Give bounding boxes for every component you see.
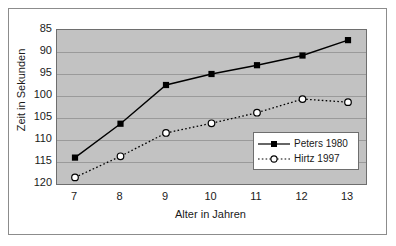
legend-label-hirtz: Hirtz 1997 [291,153,340,164]
x-tick-label: 9 [150,190,180,202]
legend-item-peters: Peters 1980 [257,136,354,151]
x-tick-label: 12 [287,190,317,202]
chart-figure: Zeit in Sekunden 859095100105110115120 7… [0,0,396,246]
data-point-square-icon [163,82,169,88]
data-point-circle-icon [208,120,215,127]
x-tick-label: 10 [196,190,226,202]
data-point-square-icon [117,121,123,127]
data-point-square-icon [72,155,78,161]
legend-key-dotted-circle-icon [257,152,291,166]
x-tick-label: 8 [105,190,135,202]
data-point-circle-icon [345,99,352,106]
legend-key-solid-square-icon [257,137,291,151]
y-axis-ticks: 859095100105110115120 [0,29,52,183]
data-point-square-icon [345,37,351,43]
y-tick-label: 115 [6,155,52,166]
x-tick-label: 13 [332,190,362,202]
legend-label-peters: Peters 1980 [291,138,348,149]
x-tick-label: 11 [241,190,271,202]
data-point-circle-icon [163,130,170,137]
y-tick-label: 95 [6,67,52,78]
data-point-square-icon [299,52,305,58]
y-tick-label: 120 [6,177,52,188]
y-tick-label: 100 [6,89,52,100]
y-tick-label: 105 [6,111,52,122]
data-point-circle-icon [254,109,261,116]
data-point-square-icon [254,62,260,68]
y-tick-label: 90 [6,45,52,56]
x-axis-title: Alter in Jahren [56,208,365,220]
x-axis-ticks: 78910111213 [56,190,365,206]
data-point-circle-icon [72,174,79,181]
data-point-circle-icon [299,96,306,103]
chart-legend: Peters 1980 Hirtz 1997 [253,132,359,170]
y-tick-label: 110 [6,133,52,144]
x-tick-label: 7 [59,190,89,202]
y-tick-label: 85 [6,23,52,34]
data-point-circle-icon [117,153,124,160]
legend-item-hirtz: Hirtz 1997 [257,151,354,166]
data-point-square-icon [208,71,214,77]
